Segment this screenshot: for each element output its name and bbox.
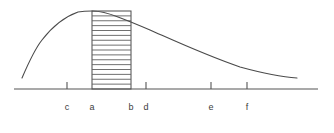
tick-label-a: a [89, 102, 94, 112]
tick-label-b: b [128, 102, 133, 112]
tick-label-d: d [143, 102, 148, 112]
hatched-rectangle [92, 11, 131, 89]
tick-label-f: f [246, 102, 249, 112]
tick-label-e: e [208, 102, 213, 112]
tick-marks [67, 82, 247, 89]
density-curve [22, 11, 297, 78]
hatch-lines [92, 16, 131, 84]
tick-labels: c a b d e f [65, 102, 249, 112]
figure-container: c a b d e f [0, 0, 334, 133]
figure-svg: c a b d e f [0, 0, 334, 133]
tick-label-c: c [65, 102, 70, 112]
